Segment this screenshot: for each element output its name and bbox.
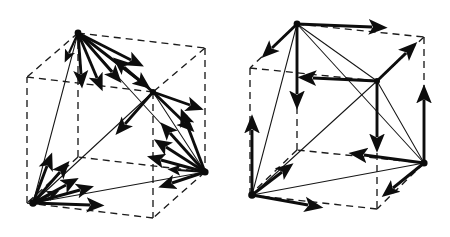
vertex-dot-bottom-left bbox=[248, 191, 256, 199]
vertex-dot-bottom-left bbox=[29, 199, 37, 207]
arrow-bl-right bbox=[33, 203, 90, 205]
vertex-dot-right bbox=[201, 168, 208, 175]
vertex-dot-center bbox=[374, 78, 380, 84]
vertex-dot-top bbox=[75, 30, 82, 37]
cube-vector-figure bbox=[0, 0, 450, 237]
vertex-dot-top bbox=[294, 21, 301, 28]
figure-root bbox=[0, 0, 450, 237]
vertex-dot-right bbox=[420, 159, 427, 166]
figure-background bbox=[0, 0, 450, 237]
vertex-dot-center bbox=[150, 89, 156, 95]
